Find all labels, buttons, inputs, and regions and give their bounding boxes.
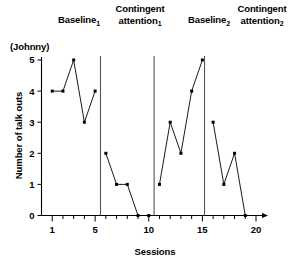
data-point xyxy=(212,121,215,124)
data-point xyxy=(72,59,75,62)
data-point xyxy=(169,121,172,124)
x-tick-label: 15 xyxy=(197,224,208,235)
data-point xyxy=(61,90,64,93)
data-point xyxy=(137,214,140,217)
y-tick-label: 2 xyxy=(29,148,34,159)
x-tick-label: 1 xyxy=(50,224,56,235)
data-point xyxy=(201,59,204,62)
data-point xyxy=(222,183,225,186)
data-line-series-2 xyxy=(159,60,202,184)
x-tick-label: 10 xyxy=(143,224,154,235)
y-tick-label: 1 xyxy=(29,179,35,190)
data-point xyxy=(126,183,129,186)
y-tick-label: 4 xyxy=(29,86,35,97)
data-point xyxy=(190,90,193,93)
x-axis-arrow-icon xyxy=(262,213,268,218)
data-point xyxy=(115,183,118,186)
x-tick-label: 20 xyxy=(251,224,262,235)
data-point xyxy=(179,152,182,155)
data-point xyxy=(233,152,236,155)
data-point xyxy=(158,183,161,186)
x-axis-title: Sessions xyxy=(40,246,270,257)
y-tick-label: 3 xyxy=(29,117,34,128)
data-point xyxy=(244,214,247,217)
y-tick-label: 0 xyxy=(29,210,34,221)
x-tick-label: 5 xyxy=(92,224,98,235)
data-point xyxy=(147,214,150,217)
data-point xyxy=(94,90,97,93)
data-point xyxy=(104,152,107,155)
y-tick-label: 5 xyxy=(29,54,35,65)
data-line-series-3 xyxy=(213,122,245,215)
plot-area: 01234515101520 xyxy=(0,0,290,262)
data-point xyxy=(83,121,86,124)
data-point xyxy=(51,90,54,93)
talk-outs-figure: Baseline1 Contingent attention1 Baseline… xyxy=(0,0,290,262)
data-line-series-0 xyxy=(52,60,95,122)
